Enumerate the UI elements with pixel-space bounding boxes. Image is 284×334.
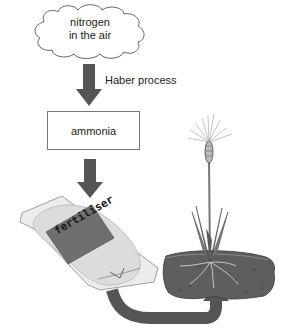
cloud-label-line1: nitrogen <box>40 16 140 29</box>
cloud-label-line2: in the air <box>40 29 140 42</box>
cloud-label: nitrogen in the air <box>40 16 140 42</box>
arrow-down-icon <box>76 64 102 106</box>
wheat-plant-icon <box>188 114 232 262</box>
diagram-canvas <box>0 0 284 334</box>
soil-icon <box>163 251 274 299</box>
ammonia-label: ammonia <box>71 125 116 137</box>
ammonia-box: ammonia <box>47 111 140 150</box>
edge-label-haber-process: Haber process <box>105 74 177 86</box>
arrow-down-icon <box>77 159 103 198</box>
